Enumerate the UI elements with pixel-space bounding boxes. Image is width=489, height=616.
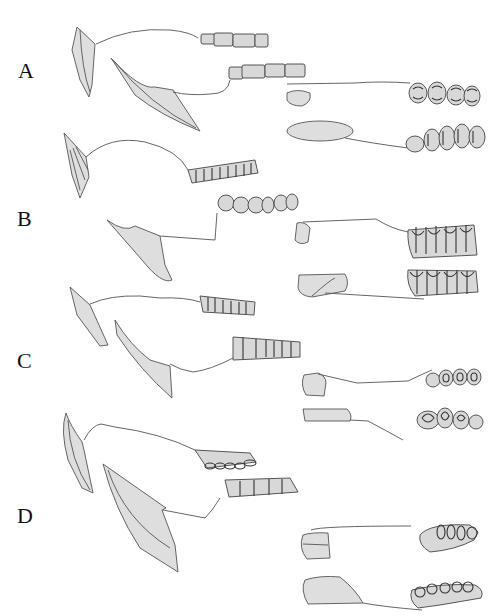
panel-a [72, 27, 485, 152]
panel-d [63, 413, 482, 610]
figure-drawing [0, 0, 489, 616]
lower-incisor [107, 220, 172, 281]
panel-b [64, 133, 478, 299]
occlusal-incisor-upper [302, 373, 326, 396]
lower-occlusal-molars [417, 408, 483, 429]
upper-tooth-row [188, 160, 258, 183]
upper-tooth-row [200, 296, 255, 315]
lower-tooth-row [225, 478, 298, 497]
lower-occlusal-molars [411, 582, 482, 608]
lower-tooth-row [218, 194, 298, 213]
upper-incisor [63, 413, 93, 493]
panel-c [70, 287, 483, 440]
upper-incisor [72, 27, 95, 97]
upper-tooth-row [201, 33, 268, 47]
occlusal-incisor-lower [287, 121, 353, 141]
upper-occlusal-molars [409, 82, 480, 106]
upper-occlusal-molars [408, 225, 477, 258]
lower-tooth-row [233, 337, 300, 360]
occlusal-incisor-upper [295, 223, 310, 244]
upper-tooth-row [195, 450, 256, 469]
occlusal-incisor-upper [301, 533, 330, 559]
lower-occlusal-molars [406, 124, 485, 152]
lower-incisor [115, 320, 172, 398]
upper-occlusal-molars [426, 369, 481, 387]
lower-incisor [103, 464, 178, 572]
lower-occlusal-molars [408, 270, 478, 296]
upper-incisor [70, 287, 108, 346]
upper-occlusal-molars [420, 525, 478, 552]
occlusal-incisor-lower [303, 409, 351, 421]
occlusal-incisor-upper [287, 91, 310, 107]
lower-tooth-row [229, 64, 305, 79]
occlusal-incisor-lower [303, 576, 363, 604]
